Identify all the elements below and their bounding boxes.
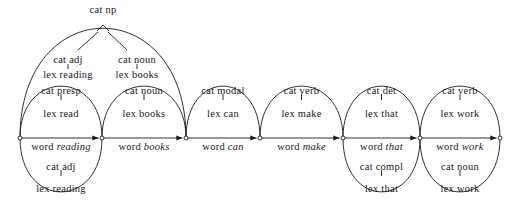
cat-label-np: cat np: [90, 4, 117, 15]
lex-label-lex-that: lex that: [365, 108, 398, 119]
np-child-connector-0: [78, 32, 98, 50]
word-label-make: word make: [277, 141, 326, 152]
lex-label-lex-can: lex can: [207, 108, 239, 119]
word-label-reading: word reading: [31, 141, 91, 152]
cat-label-cat-compl: cat compl: [360, 161, 403, 172]
word-label-can: word can: [202, 141, 243, 152]
tick-layer: [61, 25, 460, 176]
word-label-books: word books: [118, 141, 169, 152]
lattice-node-0: [18, 136, 22, 140]
word-prefix: word: [31, 141, 56, 152]
cat-label-cat-adj: cat adj: [46, 161, 75, 172]
lattice-node-1: [100, 136, 104, 140]
word-token: work: [462, 141, 484, 152]
word-prefix: word: [118, 141, 143, 152]
cat-label-cat-det: cat det: [367, 85, 396, 96]
lattice-node-5: [418, 136, 422, 140]
np-child-cat-cat-noun: cat noun: [118, 54, 156, 65]
lattice-svg: [0, 0, 523, 204]
lattice-node-2: [184, 136, 188, 140]
arc-span-np: [20, 28, 186, 138]
lattice-node-3: [258, 136, 262, 140]
word-token: can: [228, 141, 244, 152]
np-child-connector-1: [108, 32, 127, 50]
cat-label-cat-modal: cat modal: [201, 85, 244, 96]
cat-label-cat-noun: cat noun: [125, 85, 163, 96]
word-prefix: word: [277, 141, 302, 152]
lex-label-lex-work: lex work: [440, 108, 479, 119]
word-token: that: [386, 141, 403, 152]
lattice-node-6: [498, 136, 502, 140]
word-prefix: word: [202, 141, 227, 152]
word-label-work: word work: [436, 141, 483, 152]
cat-label-cat-verb: cat verb: [284, 85, 320, 96]
np-child-lex-lex-books: lex books: [116, 69, 159, 80]
word-token: books: [144, 141, 170, 152]
np-child-cat-cat-adj: cat adj: [53, 54, 82, 65]
lattice-node-4: [341, 136, 345, 140]
cat-label-cat-verb: cat verb: [442, 85, 478, 96]
word-token: reading: [57, 141, 91, 152]
word-label-that: word that: [360, 141, 403, 152]
word-prefix: word: [360, 141, 385, 152]
cat-label-cat-noun: cat noun: [441, 161, 479, 172]
cat-label-cat-presp: cat presp: [41, 85, 81, 96]
arc-layer: [20, 28, 500, 192]
lex-label-lex-reading: lex reading: [36, 183, 86, 194]
lex-label-lex-read: lex read: [43, 108, 79, 119]
lex-label-lex-work: lex work: [440, 183, 479, 194]
lex-label-lex-make: lex make: [281, 108, 321, 119]
lex-label-lex-that: lex that: [365, 183, 398, 194]
np-child-lex-lex-reading: lex reading: [43, 69, 93, 80]
lex-label-lex-books: lex books: [123, 108, 166, 119]
word-prefix: word: [436, 141, 461, 152]
chart-lattice-diagram: word readingword booksword canword makew…: [0, 0, 523, 204]
word-token: make: [303, 141, 326, 152]
